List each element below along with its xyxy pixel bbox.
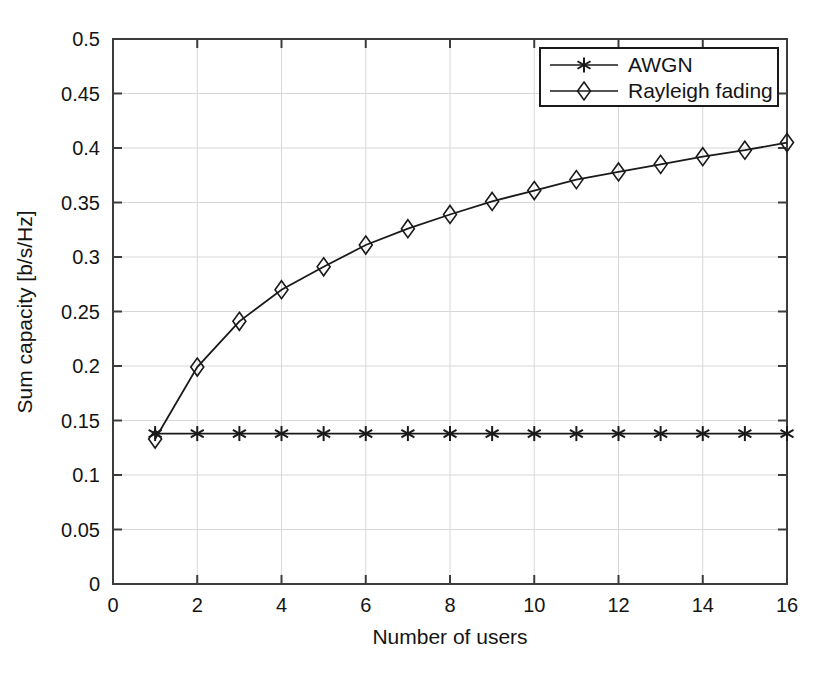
y-tick-label: 0.5 (72, 28, 100, 50)
x-tick-label: 10 (523, 594, 545, 616)
legend-entry[interactable]: Rayleigh fading (550, 79, 773, 102)
y-tick-label: 0.45 (61, 83, 100, 105)
x-tick-label: 16 (776, 594, 798, 616)
y-tick-label: 0.3 (72, 246, 100, 268)
legend-label: AWGN (628, 53, 693, 76)
y-tick-label: 0.25 (61, 301, 100, 323)
y-tick-label: 0.15 (61, 410, 100, 432)
y-axis-title: Sum capacity [b/s/Hz] (13, 210, 36, 413)
y-tick-label: 0.35 (61, 192, 100, 214)
y-tick-label: 0.05 (61, 519, 100, 541)
legend-label: Rayleigh fading (628, 79, 773, 102)
y-tick-label: 0.4 (72, 137, 100, 159)
x-tick-label: 12 (607, 594, 629, 616)
x-tick-label: 8 (444, 594, 455, 616)
x-axis-title: Number of users (372, 625, 527, 648)
y-tick-label: 0.2 (72, 355, 100, 377)
x-tick-label: 14 (692, 594, 714, 616)
x-tick-label: 2 (192, 594, 203, 616)
x-tick-label: 6 (360, 594, 371, 616)
x-tick-label: 4 (276, 594, 287, 616)
chart-legend[interactable]: AWGNRayleigh fading (540, 48, 778, 106)
chart-canvas: 0246810121416 00.050.10.150.20.250.30.35… (0, 0, 830, 676)
x-tick-label: 0 (107, 594, 118, 616)
y-tick-label: 0.1 (72, 464, 100, 486)
figure-container: 0246810121416 00.050.10.150.20.250.30.35… (0, 0, 830, 676)
y-tick-label: 0 (89, 573, 100, 595)
